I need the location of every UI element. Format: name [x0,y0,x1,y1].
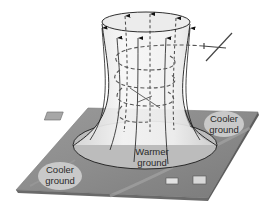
cooler-ground-left-line1: Cooler [46,164,74,175]
building-left [44,112,63,120]
thermal-diagram: Cooler ground Cooler ground Warmer groun… [0,0,271,209]
cooler-ground-right-line2: ground [209,124,239,135]
building-right-1 [166,178,178,184]
cooler-ground-right-line1: Cooler [210,113,238,124]
glider-top [203,33,232,61]
cooler-ground-left-line2: ground [45,175,75,186]
building-right-2 [193,176,206,184]
warmer-ground-line2: ground [137,157,167,168]
warmer-ground-line1: Warmer [135,146,168,157]
column-top [102,12,190,32]
